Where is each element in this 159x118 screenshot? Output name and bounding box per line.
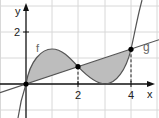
y-axis-arrow-icon (23, 3, 29, 11)
x-tick-label-4: 4 (128, 89, 134, 101)
x-tick-label-2: 2 (75, 89, 81, 101)
y-tick-label-2: 2 (14, 26, 20, 38)
point-origin (23, 81, 28, 86)
curve-f-label: f (36, 42, 40, 54)
x-axis-arrow-icon (147, 81, 155, 87)
y-axis-label: y (15, 5, 21, 17)
curve-g-label: g (143, 40, 150, 54)
point-x4 (128, 47, 133, 52)
point-x2 (75, 64, 80, 69)
x-axis-label: x (147, 88, 153, 100)
function-plot: y 2 2 4 x f g (0, 0, 159, 118)
